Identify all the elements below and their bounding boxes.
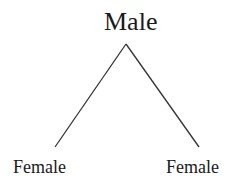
left-child-node-label: Female	[13, 158, 66, 176]
family-tree-diagram: Male Female Female	[0, 0, 240, 183]
right-child-node-label: Female	[166, 158, 219, 176]
root-node-label: Male	[104, 9, 157, 35]
edge-root-to-left	[55, 44, 126, 147]
edge-root-to-right	[126, 44, 199, 147]
